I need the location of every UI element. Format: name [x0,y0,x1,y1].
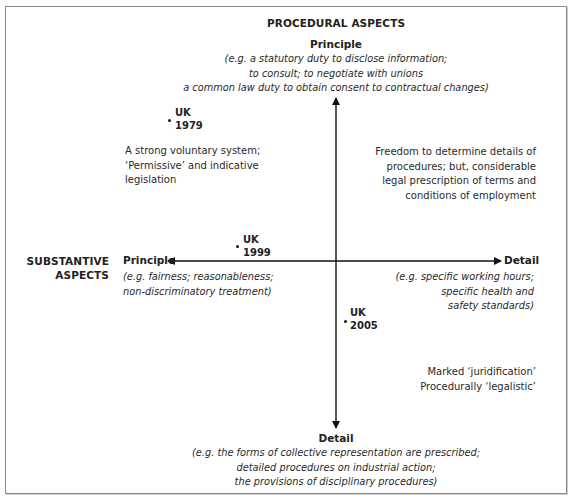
point-marker-uk-1999 [236,245,239,248]
point-marker-uk-2005 [344,320,347,323]
vertical-axis-top-examples: (e.g. a statutory duty to disclose infor… [156,52,516,96]
horizontal-axis-left-label: Principle [123,254,175,266]
vertical-axis-bottom-examples: (e.g. the forms of collective representa… [156,446,516,490]
horizontal-axis-right-label: Detail [504,254,539,266]
point-label-uk-1979: UK 1979 [175,107,203,132]
quadrant-note-bottom-right: Marked ‘juridification’ Procedurally ‘le… [380,365,536,394]
quadrant-note-top-right: Freedom to determine details of procedur… [360,145,536,203]
quadrant-note-top-left: A strong voluntary system; ‘Permissive’ … [125,144,285,188]
vertical-axis-bottom-label: Detail [286,432,386,444]
vertical-axis-title: PROCEDURAL ASPECTS [236,17,436,29]
horizontal-axis-left-examples: (e.g. fairness; reasonableness; non-disc… [123,270,303,299]
point-marker-uk-1979 [168,119,171,122]
horizontal-axis-right-examples: (e.g. specific working hours; specific h… [360,270,534,314]
point-label-uk-1999: UK 1999 [243,234,271,259]
horizontal-axis-title: SUBSTANTIVE ASPECTS [20,255,109,282]
vertical-axis-top-label: Principle [286,38,386,50]
point-label-uk-2005: UK 2005 [350,307,378,332]
